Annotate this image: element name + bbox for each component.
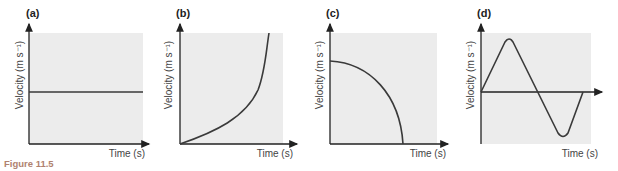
y-axis-label: Velocity (m s⁻¹) [14,41,25,109]
panel-label: (a) [26,7,40,19]
panel-a: (a) Velocity (m s⁻¹) Time (s) [14,7,149,159]
y-axis-label: Velocity (m s⁻¹) [465,41,476,109]
figure-canvas: (a) Velocity (m s⁻¹) Time (s) (b) Veloci… [0,0,618,171]
panel-d: (d) Velocity (m s⁻¹) Time (s) [465,7,602,159]
figure-caption: Figure 11.5 [4,158,54,169]
y-axis-label: Velocity (m s⁻¹) [314,41,325,109]
panel-b: (b) Velocity (m s⁻¹) Time (s) [163,7,297,159]
x-axis-label: Time (s) [109,148,145,159]
plot-area [29,33,143,144]
x-axis-label: Time (s) [257,148,293,159]
panel-label: (b) [176,7,190,19]
panel-c: (c) Velocity (m s⁻¹) Time (s) [314,7,448,159]
plot-area [180,33,283,144]
x-axis-label: Time (s) [410,148,446,159]
panel-label: (c) [326,7,340,19]
y-axis-label: Velocity (m s⁻¹) [163,41,174,109]
panel-label: (d) [477,7,491,19]
x-axis-label: Time (s) [562,148,598,159]
